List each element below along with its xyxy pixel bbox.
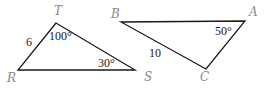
angle-label-a: 50°	[215, 24, 232, 38]
triangles-diagram: T R S 6 100° 30° B A C 10 50°	[0, 0, 271, 92]
vertex-label-a: A	[248, 5, 258, 19]
vertex-label-t: T	[54, 4, 63, 18]
vertex-label-r: R	[6, 71, 16, 85]
triangle-rst	[18, 23, 135, 70]
angle-label-t: 100°	[49, 29, 72, 43]
angle-label-s: 30°	[98, 56, 115, 70]
vertex-label-b: B	[110, 7, 120, 21]
vertex-label-c: C	[200, 70, 209, 84]
side-label-rt: 6	[26, 35, 32, 49]
vertex-label-s: S	[144, 70, 152, 84]
side-label-bc: 10	[149, 46, 161, 60]
